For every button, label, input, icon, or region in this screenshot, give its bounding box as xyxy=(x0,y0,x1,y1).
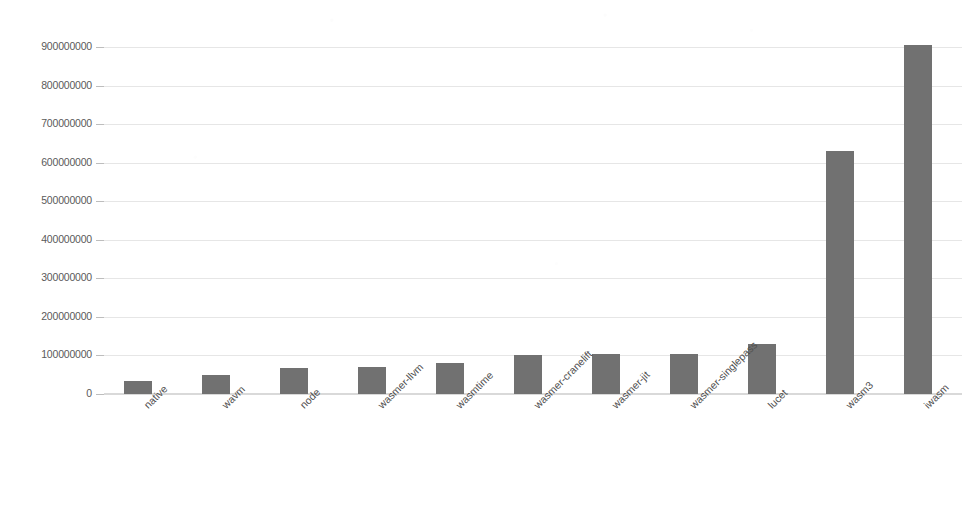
bar xyxy=(280,368,308,394)
gridline xyxy=(104,355,962,356)
bars-layer xyxy=(104,0,962,507)
x-axis-tick-label: wasmer-singlepass xyxy=(688,339,759,410)
bar-chart: 0100000000200000000300000000400000000500… xyxy=(0,0,976,507)
bar xyxy=(436,363,464,394)
gridline xyxy=(104,278,962,279)
y-axis-tick-label: 300000000 xyxy=(41,272,92,283)
y-axis-tick-label: 500000000 xyxy=(41,195,92,206)
y-axis-tick-label: 200000000 xyxy=(41,311,92,322)
x-axis-tick-label: native xyxy=(142,383,169,410)
y-axis-tick-mark xyxy=(96,317,104,318)
y-axis-tick-label: 800000000 xyxy=(41,80,92,91)
y-axis-tick-mark xyxy=(96,163,104,164)
y-axis-tick-label: 900000000 xyxy=(41,41,92,52)
gridline xyxy=(104,201,962,202)
bar xyxy=(904,45,932,394)
gridline xyxy=(104,317,962,318)
bar xyxy=(514,355,542,394)
scan-noise-overlay xyxy=(0,0,976,507)
y-axis-tick-mark xyxy=(96,124,104,125)
y-axis-tick-label: 400000000 xyxy=(41,234,92,245)
x-axis-tick-label: wasmtime xyxy=(454,370,495,411)
x-axis-tick-label: iwasm xyxy=(922,382,950,410)
y-axis-tick-mark xyxy=(96,86,104,87)
x-axis-tick-label: wasmer-jit xyxy=(610,369,651,410)
y-axis-tick-mark xyxy=(96,201,104,202)
y-axis-tick-label: 600000000 xyxy=(41,157,92,168)
gridline xyxy=(104,86,962,87)
bar xyxy=(670,354,698,394)
y-axis-tick-label: 700000000 xyxy=(41,118,92,129)
bar xyxy=(592,354,620,394)
x-axis-tick-label: node xyxy=(298,386,322,410)
y-axis-tick-mark xyxy=(96,355,104,356)
x-axis-tick-label: lucet xyxy=(766,387,789,410)
y-axis-tick-label: 100000000 xyxy=(41,349,92,360)
y-axis-tick-mark xyxy=(96,394,104,395)
x-axis-tick-label: wasmer-cranelift xyxy=(532,349,594,411)
gridline xyxy=(104,124,962,125)
x-axis-tick-label: wavm xyxy=(220,384,247,411)
gridline xyxy=(104,47,962,48)
y-axis-tick-mark xyxy=(96,240,104,241)
bar xyxy=(202,375,230,394)
y-axis-tick-label: 0 xyxy=(86,388,92,399)
gridline xyxy=(104,163,962,164)
gridline xyxy=(104,240,962,241)
y-axis-tick-mark xyxy=(96,47,104,48)
bar xyxy=(826,151,854,394)
y-axis-tick-mark xyxy=(96,278,104,279)
bar xyxy=(358,367,386,394)
x-axis-tick-label: wasmer-llvm xyxy=(376,361,425,410)
